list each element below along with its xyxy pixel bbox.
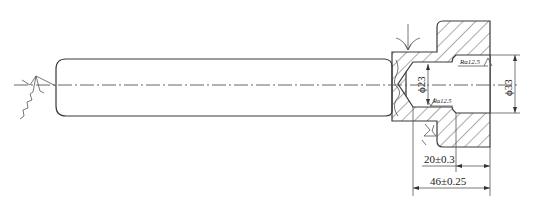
dim-diameter-33: ϕ33 [490, 55, 520, 113]
dim-depth-46: 46±0.25 [413, 175, 490, 190]
diameter-33-label: ϕ33 [502, 79, 514, 96]
weld-symbol-bottom-icon [422, 124, 436, 145]
depth-46-label: 46±0.25 [430, 175, 467, 187]
diameter-23-label: ϕ23 [415, 76, 427, 93]
ra-large-label: Ra12.5 [459, 58, 481, 66]
shaft [56, 59, 392, 116]
weld-symbol-left-icon [20, 76, 56, 119]
hub-section [392, 21, 490, 147]
technical-drawing: ϕ23 ϕ33 Ra12.5 Ra12.5 20±0.3 46±0.25 [0, 0, 537, 205]
depth-20-label: 20±0.3 [424, 153, 455, 165]
ra-small-label: Ra12.5 [432, 97, 452, 104]
weld-arrow-top-icon [396, 24, 420, 50]
